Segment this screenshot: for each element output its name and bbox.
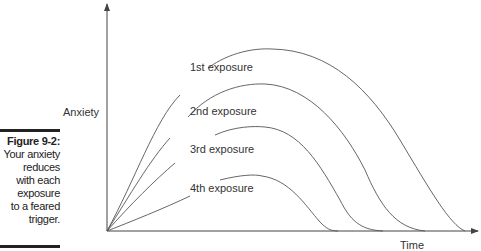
label-1st-exposure: 1st exposure [190, 61, 253, 73]
curve-1st-exposure [107, 49, 465, 231]
label-2nd-exposure: 2nd exposure [190, 105, 257, 117]
label-4th-exposure: 4th exposure [190, 182, 254, 194]
anxiety-chart: 1st exposure 2nd exposure 3rd exposure 4… [0, 0, 481, 251]
x-axis-label: Time [400, 239, 424, 251]
curve-2nd-exposure [107, 84, 425, 231]
y-axis-label: Anxiety [63, 106, 100, 118]
label-3rd-exposure: 3rd exposure [190, 143, 254, 155]
